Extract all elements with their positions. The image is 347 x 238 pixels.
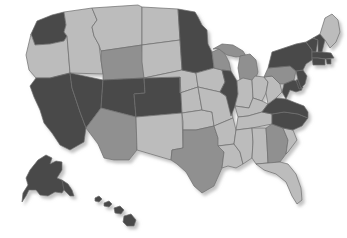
us-map-svg	[0, 0, 347, 238]
state-alaska-aleutian[interactable]	[62, 180, 74, 196]
state-hawaii-kauai[interactable]	[95, 196, 102, 202]
state-alabama[interactable]	[252, 128, 268, 164]
state-hawaii-big-island[interactable]	[123, 214, 136, 226]
state-florida[interactable]	[256, 162, 302, 204]
state-montana[interactable]	[92, 5, 142, 51]
state-hawaii-oahu[interactable]	[104, 201, 112, 207]
state-indiana[interactable]	[235, 78, 253, 108]
state-north-dakota[interactable]	[142, 7, 180, 45]
state-minnesota[interactable]	[178, 9, 214, 73]
state-washington[interactable]	[31, 12, 67, 45]
states-layer	[22, 5, 340, 226]
state-connecticut[interactable]	[312, 58, 325, 65]
state-rhode-island[interactable]	[326, 59, 331, 64]
state-wyoming[interactable]	[101, 45, 144, 80]
state-hawaii-molokai-maui[interactable]	[114, 206, 124, 214]
us-choropleth-map-figure	[0, 0, 347, 238]
state-alaska[interactable]	[22, 155, 66, 202]
state-ohio[interactable]	[252, 76, 268, 101]
